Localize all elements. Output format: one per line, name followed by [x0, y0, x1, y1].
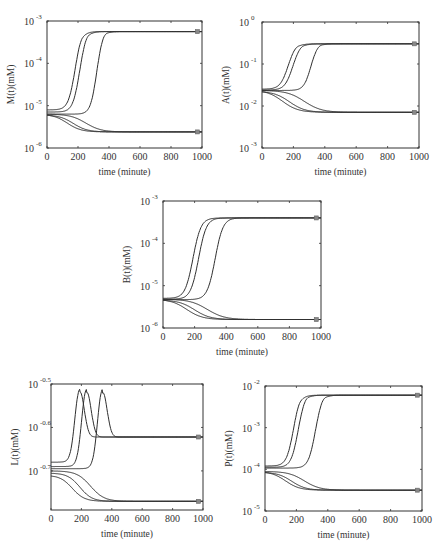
y-tick-label: 10	[242, 381, 252, 392]
x-tick-label: 400	[317, 151, 332, 162]
series-fall-1	[262, 92, 419, 113]
y-tick-exponent: -0.7	[40, 463, 52, 471]
x-tick-label: 400	[102, 151, 117, 162]
y-tick-exponent: -4	[36, 55, 42, 63]
series-fall-3	[51, 471, 203, 501]
steady-state-marker	[196, 499, 200, 503]
series-rise-1	[47, 32, 202, 110]
y-axis-label: P(t)(mM)	[224, 430, 235, 466]
series-rise-2	[262, 44, 419, 90]
series-fall-3	[265, 472, 422, 491]
x-tick-label: 600	[352, 514, 367, 525]
curves	[51, 389, 203, 501]
x-tick-label: 0	[260, 151, 265, 162]
curves	[163, 218, 321, 320]
x-tick-label: 0	[49, 513, 54, 524]
y-tick-label: 10	[239, 101, 249, 112]
y-tick-exponent: -3	[251, 140, 257, 148]
x-tick-label: 600	[349, 151, 364, 162]
axes-frame	[51, 384, 203, 510]
y-tick-exponent: -4	[254, 461, 260, 469]
series-rise-2	[163, 218, 321, 299]
y-tick-exponent: -3	[152, 193, 158, 201]
x-axis-label: time (minute)	[99, 167, 151, 178]
series-fall-2	[265, 473, 422, 491]
y-tick-label: 10	[239, 17, 249, 28]
y-tick-exponent: -4	[152, 235, 158, 243]
x-tick-label: 0	[161, 331, 166, 342]
figure-canvas: 0200400600800100010-610-510-410-3time (m…	[0, 0, 439, 554]
y-tick-exponent: -2	[251, 98, 257, 106]
curves	[262, 44, 419, 113]
y-tick-label: 10	[242, 464, 252, 475]
series-fall-1	[163, 300, 321, 319]
y-tick-label: 10	[28, 379, 38, 390]
x-tick-label: 1000	[412, 514, 432, 525]
x-tick-label: 400	[104, 513, 119, 524]
series-rise-1	[262, 44, 419, 89]
y-tick-label: 10	[28, 466, 38, 477]
y-tick-label: 10	[140, 323, 150, 334]
series-fall-2	[262, 92, 419, 112]
x-tick-label: 200	[187, 331, 202, 342]
series-fall-3	[262, 91, 419, 113]
steady-state-marker	[415, 488, 419, 492]
steady-state-marker	[415, 393, 419, 397]
axes-frame	[47, 21, 202, 148]
axes-frame	[262, 22, 419, 148]
steady-state-marker	[314, 318, 318, 322]
y-axis-label: M(t)(mM)	[6, 65, 17, 105]
x-tick-label: 800	[380, 151, 395, 162]
x-tick-label: 0	[263, 514, 268, 525]
y-tick-label: 10	[239, 143, 249, 154]
series-rise-2	[265, 395, 422, 467]
x-tick-label: 600	[250, 331, 265, 342]
x-tick-label: 200	[71, 151, 86, 162]
series-rise-3	[47, 32, 202, 115]
y-tick-exponent: -1	[251, 56, 257, 64]
x-tick-label: 0	[45, 151, 50, 162]
series-fall-3	[47, 114, 202, 132]
y-tick-label: 10	[24, 101, 34, 112]
y-tick-label: 10	[28, 422, 38, 433]
y-tick-label: 10	[140, 281, 150, 292]
x-tick-label: 800	[383, 514, 398, 525]
series-rise-3	[265, 395, 422, 468]
steady-state-marker	[195, 30, 199, 34]
series-fall-1	[265, 472, 422, 490]
x-tick-label: 600	[135, 513, 150, 524]
x-tick-label: 200	[289, 514, 304, 525]
y-tick-exponent: -0.5	[40, 376, 52, 384]
series-pulse-1	[51, 389, 203, 462]
x-axis-label: time (minute)	[315, 167, 367, 178]
series-fall-1	[51, 476, 203, 501]
plot-L: 0200400600800100010-0.710-0.610-0.5time …	[10, 376, 213, 540]
x-tick-label: 1000	[193, 513, 213, 524]
plot-P: 0200400600800100010-510-410-310-2time (m…	[224, 378, 432, 541]
curves	[47, 32, 202, 132]
series-rise-1	[163, 218, 321, 298]
series-rise-1	[265, 395, 422, 466]
x-tick-label: 800	[164, 151, 179, 162]
plot-M: 0200400600800100010-610-510-410-3time (m…	[6, 13, 212, 178]
x-tick-label: 800	[282, 331, 297, 342]
y-axis-label: A(t)(mM)	[221, 66, 232, 104]
x-tick-label: 400	[219, 331, 234, 342]
series-fall-1	[47, 115, 202, 132]
y-tick-label: 10	[239, 59, 249, 70]
y-axis-label: B(t)(mM)	[122, 246, 133, 283]
x-tick-label: 400	[320, 514, 335, 525]
y-tick-label: 10	[24, 58, 34, 69]
steady-state-marker	[196, 435, 200, 439]
y-tick-exponent: -2	[254, 378, 260, 386]
curves	[265, 395, 422, 490]
x-tick-label: 1000	[192, 151, 212, 162]
y-tick-label: 10	[140, 196, 150, 207]
y-tick-exponent: -5	[36, 98, 42, 106]
x-tick-label: 1000	[409, 151, 429, 162]
y-tick-label: 10	[24, 16, 34, 27]
x-axis-label: time (minute)	[101, 529, 153, 540]
y-axis-label: L(t)(mM)	[10, 429, 21, 466]
x-tick-label: 200	[74, 513, 89, 524]
series-fall-2	[47, 115, 202, 131]
